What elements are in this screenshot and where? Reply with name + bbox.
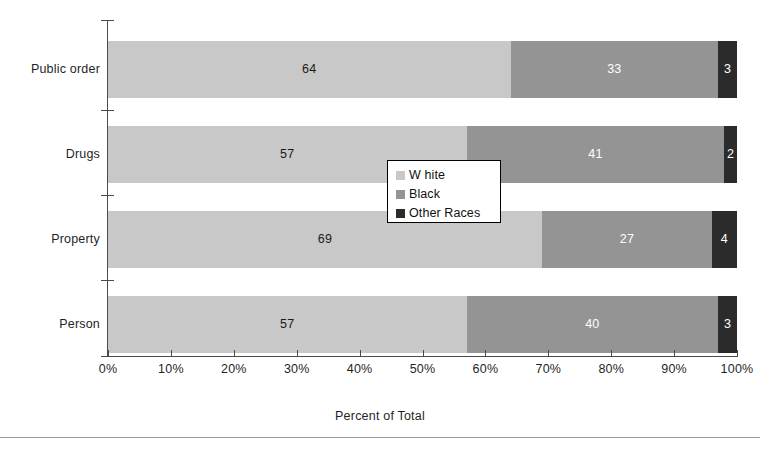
footer-divider — [0, 437, 760, 438]
x-axis-tick — [674, 350, 675, 357]
bar-value-label: 64 — [302, 63, 316, 76]
bar-row: 57403 — [108, 296, 737, 353]
x-axis-tick — [171, 350, 172, 357]
category-label-group: Public orderDrugsPropertyPerson — [0, 0, 100, 449]
x-axis-tick — [611, 350, 612, 357]
y-axis-tick — [101, 20, 114, 21]
bar-segment: 33 — [511, 41, 719, 98]
bar-value-label: 33 — [607, 63, 621, 76]
x-axis-tick-label: 10% — [158, 362, 184, 376]
x-axis-tick-label: 0% — [99, 362, 117, 376]
bar-value-label: 57 — [280, 318, 294, 331]
legend-swatch-icon — [396, 171, 405, 180]
legend-label: Black — [409, 187, 440, 201]
chart-legend: W hiteBlackOther Races — [387, 160, 501, 223]
x-axis-tick — [423, 350, 424, 357]
legend-swatch-icon — [396, 190, 405, 199]
y-axis-tick — [101, 195, 114, 196]
legend-label: W hite — [409, 168, 445, 182]
x-axis-tick — [297, 350, 298, 357]
x-axis-tick — [234, 350, 235, 357]
legend-label: Other Races — [409, 206, 480, 220]
x-axis-tick-label: 90% — [661, 362, 687, 376]
x-axis-tick-label: 30% — [284, 362, 310, 376]
category-label: Person — [4, 317, 100, 331]
bar-segment: 40 — [467, 296, 719, 353]
bar-segment: 57 — [108, 296, 467, 353]
legend-item: Black — [396, 185, 500, 203]
x-axis-tick-label: 100% — [721, 362, 754, 376]
x-axis-tick — [485, 350, 486, 357]
category-label: Drugs — [4, 147, 100, 161]
legend-item: Other Races — [396, 204, 500, 222]
bar-segment: 64 — [108, 41, 511, 98]
bar-value-label: 69 — [318, 233, 332, 246]
legend-swatch-icon — [396, 209, 405, 218]
y-axis-tick — [101, 280, 114, 281]
stacked-bar-chart: Public orderDrugsPropertyPerson 64333574… — [0, 0, 760, 449]
bar-segment: 2 — [724, 126, 737, 183]
bar-value-label: 57 — [280, 148, 294, 161]
x-axis-tick-label: 20% — [221, 362, 247, 376]
bar-value-label: 2 — [727, 148, 734, 161]
bar-row: 64333 — [108, 41, 737, 98]
bar-value-label: 4 — [721, 233, 728, 246]
y-axis-tick — [101, 110, 114, 111]
bar-value-label: 3 — [724, 63, 731, 76]
x-axis-tick-label: 80% — [598, 362, 624, 376]
bar-segment: 27 — [542, 211, 712, 268]
x-axis-title: Percent of Total — [0, 409, 760, 423]
x-axis-tick — [737, 350, 738, 357]
bar-segment: 3 — [718, 296, 737, 353]
x-axis-tick — [360, 350, 361, 357]
x-axis-tick — [108, 350, 109, 357]
x-axis-tick-label: 40% — [347, 362, 373, 376]
legend-item: W hite — [396, 166, 500, 184]
bar-segment: 41 — [467, 126, 725, 183]
x-axis-tick-label: 60% — [473, 362, 499, 376]
bar-value-label: 40 — [585, 318, 599, 331]
x-axis-tick-label: 50% — [410, 362, 436, 376]
category-label: Property — [4, 232, 100, 246]
x-axis-tick — [548, 350, 549, 357]
bar-value-label: 27 — [620, 233, 634, 246]
bar-value-label: 41 — [588, 148, 602, 161]
bar-value-label: 3 — [724, 318, 731, 331]
x-axis-tick-label: 70% — [535, 362, 561, 376]
bar-segment: 4 — [712, 211, 737, 268]
category-label: Public order — [4, 62, 100, 76]
bar-segment: 3 — [718, 41, 737, 98]
